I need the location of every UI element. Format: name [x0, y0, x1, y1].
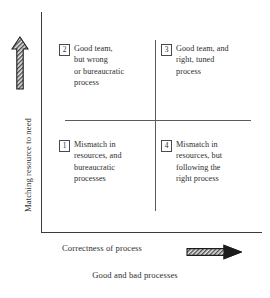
- quadrant-divider-vertical: [155, 40, 156, 211]
- quadrant-divider-horizontal: [65, 120, 251, 121]
- arrow-up-hatched-icon: [11, 36, 29, 90]
- quadrant-2-label: Good team, but wrong or bureaucratic pro…: [74, 43, 124, 89]
- y-axis-line: [41, 12, 42, 233]
- quadrant-2: 2 Good team, but wrong or bureaucratic p…: [59, 43, 151, 89]
- quadrant-4: 4 Mismatch in resources, but following t…: [161, 139, 261, 185]
- x-axis-line: [41, 232, 262, 233]
- y-axis-label: Matching resource to need: [23, 85, 33, 245]
- figure-caption: Good and bad processes: [0, 270, 270, 280]
- quadrant-3-number: 3: [161, 44, 172, 56]
- quadrant-4-label: Mismatch in resources, but following the…: [176, 139, 222, 185]
- quadrant-1-label: Mismatch in resources, and bureaucratic …: [74, 139, 122, 185]
- arrow-right-hatched-icon: [186, 244, 242, 260]
- quadrant-3-label: Good team, and right, tuned process: [176, 43, 229, 77]
- quadrant-3: 3 Good team, and right, tuned process: [161, 43, 261, 77]
- quadrant-1: 1 Mismatch in resources, and bureaucrati…: [59, 139, 151, 185]
- x-axis-label: Correctness of process: [62, 243, 142, 253]
- quadrant-2-number: 2: [59, 44, 70, 56]
- quadrant-4-number: 4: [161, 140, 172, 152]
- quadrant-1-number: 1: [59, 140, 70, 152]
- quadrant-diagram: 2 Good team, but wrong or bureaucratic p…: [0, 0, 270, 298]
